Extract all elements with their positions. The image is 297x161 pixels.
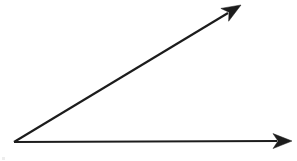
geometry-figure-canvas: Acute angle formed by two rays sharing a… (0, 0, 297, 161)
scan-speck-artifact (2, 157, 5, 160)
horizontal-ray-shaft (14, 141, 277, 142)
angle-diagram (0, 0, 297, 161)
figure-background (0, 0, 297, 161)
